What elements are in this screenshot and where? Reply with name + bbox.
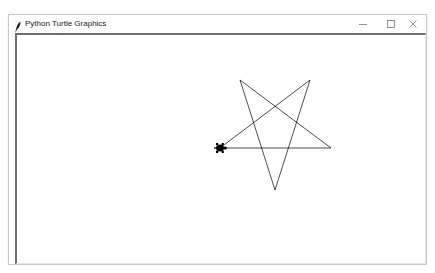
minimize-icon [359, 20, 367, 28]
turtle-canvas[interactable] [15, 33, 426, 264]
close-button[interactable] [399, 15, 427, 33]
minimize-button[interactable] [349, 15, 377, 33]
window-title: Python Turtle Graphics [25, 18, 106, 30]
close-icon [409, 20, 417, 28]
maximize-icon [387, 20, 395, 28]
title-bar[interactable]: Python Turtle Graphics [9, 15, 426, 33]
feather-icon [14, 18, 22, 29]
turtle-window: Python Turtle Graphics [8, 14, 427, 265]
